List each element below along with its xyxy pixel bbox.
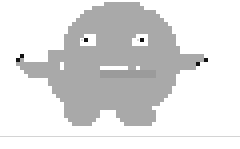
screenshot-canvas: Gray pixel monster	[0, 0, 240, 149]
horizontal-rule	[0, 136, 240, 137]
monster-sprite-canvas	[0, 0, 240, 149]
